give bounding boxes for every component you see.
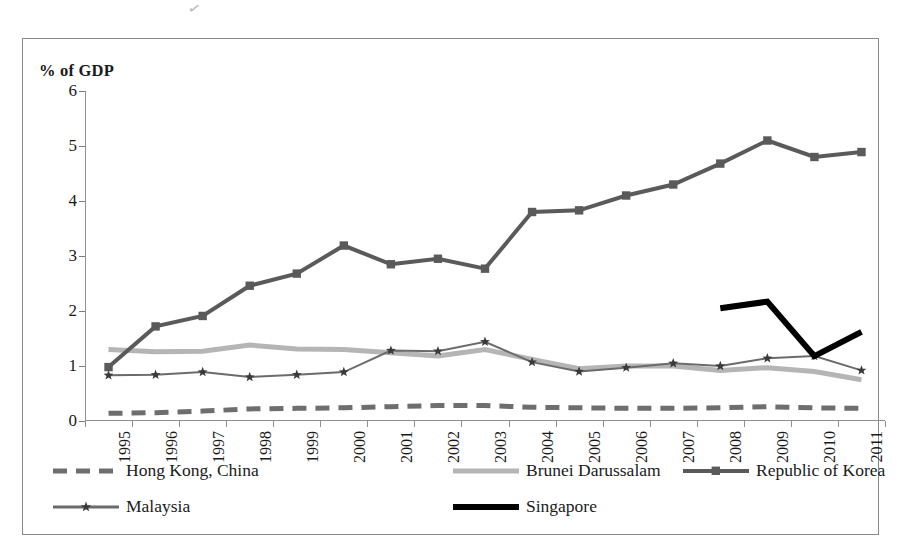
chart-legend: Hong Kong, ChinaBrunei DarussalamRepubli… xyxy=(23,454,880,532)
data-point-marker xyxy=(622,191,630,199)
legend-swatch-icon xyxy=(453,463,519,479)
x-tick-mark xyxy=(179,421,180,427)
x-tick-mark xyxy=(226,421,227,427)
plot-area: 0123456 19951996199719981999200020012002… xyxy=(85,91,885,421)
series-line xyxy=(109,406,862,414)
x-tick-mark xyxy=(273,421,274,427)
x-tick-mark xyxy=(320,421,321,427)
data-point-marker xyxy=(198,312,206,320)
y-tick-label: 1 xyxy=(69,356,78,376)
legend-swatch-icon xyxy=(53,463,119,479)
x-tick-mark xyxy=(461,421,462,427)
y-tick-label: 0 xyxy=(69,411,78,431)
data-point-marker xyxy=(245,372,255,381)
x-tick-mark xyxy=(414,421,415,427)
scan-artifact-mark: ✓ xyxy=(186,0,211,20)
x-tick-mark xyxy=(791,421,792,427)
data-series-layer xyxy=(85,91,885,421)
series-hong-kong-china xyxy=(109,406,862,414)
legend-swatch-icon xyxy=(53,499,119,515)
data-point-marker xyxy=(857,365,867,374)
legend-item-republic-of-korea[interactable]: Republic of Korea xyxy=(683,454,885,488)
series-line xyxy=(720,302,861,356)
data-point-marker xyxy=(151,322,159,330)
data-point-marker xyxy=(810,153,818,161)
data-point-marker xyxy=(575,206,583,214)
plot-area-wrapper: 0123456 19951996199719981999200020012002… xyxy=(23,39,880,399)
data-point-marker xyxy=(434,255,442,263)
y-tick-label: 3 xyxy=(69,246,78,266)
data-point-marker xyxy=(198,367,208,376)
x-tick-mark xyxy=(556,421,557,427)
legend-marker-icon xyxy=(709,464,723,478)
data-point-marker xyxy=(340,241,348,249)
legend-swatch-icon xyxy=(683,463,749,479)
data-point-marker xyxy=(339,367,349,376)
legend-item-malaysia[interactable]: Malaysia xyxy=(53,490,190,524)
x-tick-mark xyxy=(697,421,698,427)
series-singapore xyxy=(720,302,861,356)
data-point-marker xyxy=(104,370,114,379)
legend-label: Brunei Darussalam xyxy=(526,462,661,480)
data-point-marker xyxy=(762,353,772,362)
x-tick-mark xyxy=(85,421,86,427)
legend-row: MalaysiaSingapore xyxy=(23,490,880,524)
legend-label: Hong Kong, China xyxy=(126,462,259,480)
x-tick-mark xyxy=(132,421,133,427)
legend-label: Republic of Korea xyxy=(756,462,885,480)
x-tick-mark xyxy=(367,421,368,427)
x-tick-mark xyxy=(603,421,604,427)
legend-swatch-icon xyxy=(453,499,519,515)
data-point-marker xyxy=(246,282,254,290)
x-tick-mark xyxy=(744,421,745,427)
data-point-marker xyxy=(716,159,724,167)
x-tick-mark xyxy=(885,421,886,427)
legend-label: Malaysia xyxy=(126,498,190,516)
data-point-marker xyxy=(481,264,489,272)
data-point-marker xyxy=(763,136,771,144)
data-point-marker xyxy=(669,180,677,188)
legend-item-hong-kong-china[interactable]: Hong Kong, China xyxy=(53,454,259,488)
data-point-marker xyxy=(292,370,302,379)
legend-label: Singapore xyxy=(526,498,597,516)
x-tick-mark xyxy=(838,421,839,427)
data-point-marker xyxy=(480,337,490,346)
legend-row: Hong Kong, ChinaBrunei DarussalamRepubli… xyxy=(23,454,880,488)
x-tick-mark xyxy=(650,421,651,427)
y-tick-label: 2 xyxy=(69,301,78,321)
y-tick-label: 4 xyxy=(69,191,78,211)
series-line xyxy=(109,141,862,368)
data-point-marker xyxy=(104,363,112,371)
data-point-marker xyxy=(528,208,536,216)
series-malaysia xyxy=(104,337,867,382)
data-point-marker xyxy=(387,260,395,268)
y-tick-label: 5 xyxy=(69,136,78,156)
legend-item-singapore[interactable]: Singapore xyxy=(453,490,597,524)
legend-marker-icon xyxy=(79,500,93,514)
legend-item-brunei-darussalam[interactable]: Brunei Darussalam xyxy=(453,454,661,488)
x-tick-mark xyxy=(509,421,510,427)
data-point-marker xyxy=(293,269,301,277)
series-republic-of-korea xyxy=(104,136,865,371)
data-point-marker xyxy=(857,148,865,156)
y-tick-label: 6 xyxy=(69,81,78,101)
data-point-marker xyxy=(151,370,161,379)
chart-figure-frame: % of GDP 0123456 19951996199719981999200… xyxy=(22,38,879,535)
